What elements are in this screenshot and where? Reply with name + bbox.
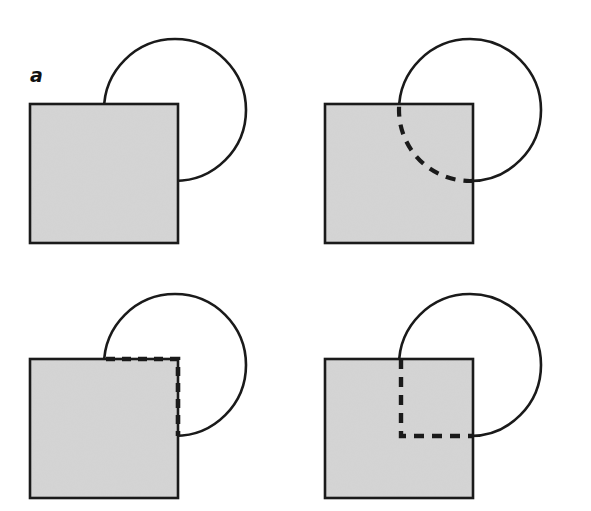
square-noise-texture — [31, 360, 177, 497]
square-noise-texture — [31, 105, 177, 242]
panel-b: b — [295, 0, 591, 256]
panel-c: c — [0, 255, 296, 511]
panel-label-a: a — [30, 66, 43, 85]
panel-a: a — [0, 0, 296, 256]
figure-container: a b — [0, 0, 591, 511]
panel-d: d — [295, 255, 591, 511]
